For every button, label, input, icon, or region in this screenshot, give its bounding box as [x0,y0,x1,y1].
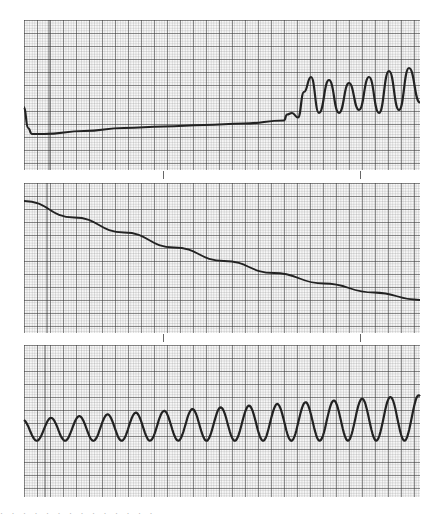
bottom-chart-panel [24,345,420,497]
middle-chart-panel [24,183,420,333]
tick-mark [163,334,164,342]
top-chart-panel [24,20,420,170]
tick-mark [360,171,361,179]
caption-text: · · · · · · · · · · · · · · [0,508,442,520]
top-trace [24,20,420,170]
middle-trace [24,183,420,333]
bottom-trace [24,345,420,497]
tick-mark [163,171,164,179]
tick-mark [360,334,361,342]
